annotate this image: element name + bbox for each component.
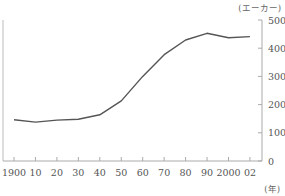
y-tick-label: 500 [268,15,285,26]
x-tick-label: 70 [158,167,170,178]
x-axis-ticks: 1900102030405060708090200002 [2,157,256,178]
x-tick-label: 30 [72,167,84,178]
x-tick-label: 40 [94,167,106,178]
x-tick-label: 02 [244,167,256,178]
y-tick-label: 100 [268,127,285,138]
x-tick-label: 60 [137,167,149,178]
x-tick-label: 50 [115,167,127,178]
x-axis-unit-label: (年) [264,184,280,194]
x-tick-label: 90 [201,167,213,178]
x-tick-label: 20 [51,167,63,178]
x-tick-label: 10 [29,167,41,178]
y-axis-unit-label: (エーカー) [238,3,281,13]
y-tick-label: 200 [268,99,285,110]
x-tick-label: 80 [180,167,192,178]
y-tick-label: 400 [268,43,285,54]
data-line [14,33,250,122]
y-tick-label: 300 [268,71,285,82]
line-chart: 0100200300400500 19001020304050607080902… [0,0,285,196]
x-tick-label: 2000 [216,167,240,178]
x-tick-label: 1900 [2,167,26,178]
y-tick-label: 0 [268,156,274,167]
